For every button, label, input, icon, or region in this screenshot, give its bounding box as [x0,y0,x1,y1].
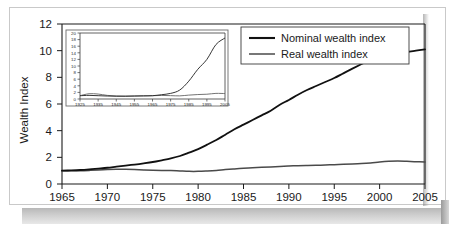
chart-page: Wealth Index 024681012 19651970197519801… [0,0,458,233]
y-axis-title: Wealth Index [18,76,30,143]
x-axis-ticks: 196519701975198019851990199520002005 [49,184,438,203]
inset-x-tick-label: 1935 [93,102,103,107]
legend: Nominal wealth index Real wealth index [241,27,409,64]
x-tick-label: 1985 [231,191,257,203]
inset-x-tick-label: 1925 [75,102,85,107]
y-tick-label: 2 [46,151,52,163]
x-tick-label: 2005 [412,191,438,203]
inset-x-tick-label: 1995 [202,102,212,107]
inset-y-tick-label: 10 [71,64,76,69]
x-tick-label: 1980 [185,191,211,203]
inset-y-tick-label: 20 [71,31,76,36]
inset-y-tick-label: 18 [71,37,76,42]
y-tick-label: 6 [46,98,52,110]
x-tick-label: 1990 [276,191,302,203]
x-tick-label: 1975 [140,191,166,203]
x-tick-label: 2000 [367,191,393,203]
y-tick-label: 0 [46,178,52,190]
inset-y-tick-label: 14 [71,51,76,56]
inset-y-tick-label: 16 [71,44,76,49]
inset-x-tick-label: 1965 [148,102,158,107]
inset-x-axis-ticks: 192519351945195519651975198519952005 [75,99,230,107]
x-tick-label: 1970 [95,191,121,203]
legend-label-nominal: Nominal wealth index [281,32,386,44]
y-tick-label: 10 [39,45,52,57]
legend-label-real: Real wealth index [281,48,368,60]
x-tick-label: 1995 [321,191,347,203]
inset-x-tick-label: 1955 [129,102,139,107]
y-tick-label: 12 [39,18,52,30]
inset-y-tick-label: 12 [71,57,76,62]
x-tick-label: 1965 [49,191,75,203]
inset-x-tick-label: 2005 [220,102,230,107]
inset-x-tick-label: 1945 [111,102,121,107]
inset-x-tick-label: 1975 [166,102,176,107]
inset-x-tick-label: 1985 [184,102,194,107]
y-tick-label: 4 [46,125,53,137]
inset-chart: 02468101214161820 1925193519451955196519… [66,30,230,107]
y-tick-label: 8 [46,71,52,83]
wealth-index-chart: Wealth Index 024681012 19651970197519801… [0,0,458,233]
y-axis-ticks: 024681012 [39,18,62,190]
chart-svg: Wealth Index 024681012 19651970197519801… [0,0,458,233]
